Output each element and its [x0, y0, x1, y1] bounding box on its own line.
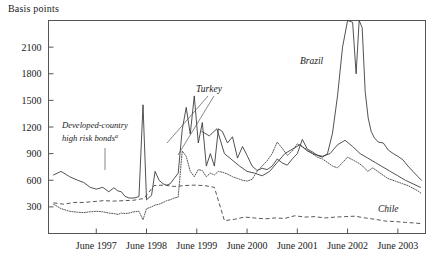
x-axis-tick-label: June 2003 [377, 240, 418, 251]
y-axis-tick-label: 300 [27, 201, 42, 212]
y-axis-tick-label: 1800 [22, 68, 42, 79]
annotation-brazil: Brazil [300, 56, 324, 66]
x-axis-tick-label: June 2001 [277, 240, 318, 251]
y-axis-tick-label: 1200 [22, 122, 42, 133]
series-brazil [54, 21, 422, 200]
y-axis-tick-label: 900 [27, 148, 42, 159]
y-axis-tick-label: 600 [27, 175, 42, 186]
annotation-developed-country-line1: Developed-country [61, 120, 128, 130]
x-axis-tick-label: June 1997 [76, 240, 117, 251]
x-axis-tick-label: June 1998 [126, 240, 167, 251]
x-axis-tick-label: June 1999 [176, 240, 217, 251]
series-chile [54, 185, 422, 224]
annotation-developed-country-line2: high risk bondsa [62, 133, 118, 143]
x-axis-tick-label: June 2002 [327, 240, 368, 251]
x-axis-ticks: June 1997June 1998June 1999June 2000June… [76, 229, 418, 251]
leader-turkey-2 [167, 96, 208, 143]
series-developed-country-high-risk-bonds [54, 142, 422, 220]
y-axis-tick-label: 2100 [22, 42, 42, 53]
chart-container: Basis points 3006009001200150018002100 J… [0, 0, 440, 260]
leader-turkey-1 [178, 96, 214, 155]
y-axis-tick-label: 1500 [22, 95, 42, 106]
x-axis-tick-label: June 2000 [227, 240, 268, 251]
annotation-turkey: Turkey [196, 84, 223, 94]
annotation-chile: Chile [378, 204, 399, 214]
chart-plot-area: 3006009001200150018002100 June 1997June … [0, 0, 440, 260]
